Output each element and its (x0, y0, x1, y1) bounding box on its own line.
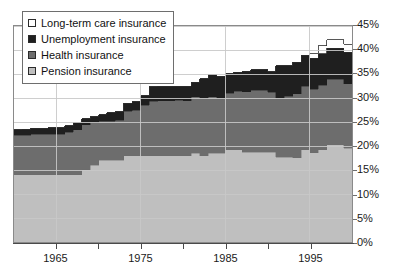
x-axis-tick-mark (226, 244, 227, 249)
y-axis-tick-label: 45% (357, 19, 379, 30)
y-axis-tick-mark (353, 219, 357, 220)
legend-label: Unemployment insurance (41, 33, 166, 45)
stacked-area-chart: 0%5%10%15%20%25%30%35%40%45% 19651975198… (0, 0, 393, 277)
legend-label: Health insurance (41, 49, 124, 61)
legend-item: Pension insurance (28, 63, 166, 79)
legend-label: Long-term care insurance (41, 17, 166, 29)
y-axis-tick-label: 10% (357, 189, 379, 200)
legend-swatch-unemployment-insurance (28, 35, 36, 43)
x-axis-tick-mark (98, 244, 99, 249)
x-axis-tick-label: 1985 (206, 252, 246, 264)
x-axis-tick-mark (311, 244, 312, 249)
y-axis-tick-label: 5% (357, 213, 373, 224)
y-axis-tick-label: 25% (357, 116, 379, 127)
y-axis-tick-mark (353, 98, 357, 99)
legend-swatch-health-insurance (28, 51, 36, 59)
y-axis-tick-mark (353, 170, 357, 171)
legend-swatch-long-term-care-insurance (28, 19, 36, 27)
y-axis-tick-mark (353, 73, 357, 74)
y-axis-tick-label: 40% (357, 43, 379, 54)
x-axis-tick-mark (56, 244, 57, 249)
legend-item: Long-term care insurance (28, 15, 166, 31)
y-axis-tick-mark (353, 49, 357, 50)
legend-item: Unemployment insurance (28, 31, 166, 47)
x-axis-tick-label: 1965 (36, 252, 76, 264)
legend-item: Health insurance (28, 47, 166, 63)
y-axis-tick-mark (353, 195, 357, 196)
legend-swatch-pension-insurance (28, 67, 36, 75)
y-axis-tick-label: 30% (357, 92, 379, 103)
chart-legend: Long-term care insurance Unemployment in… (22, 11, 174, 84)
x-axis-tick-mark (183, 244, 184, 249)
y-axis-tick-label: 0% (357, 237, 373, 248)
y-axis-tick-mark (353, 122, 357, 123)
y-axis-tick-mark (353, 146, 357, 147)
y-axis-tick-mark (353, 25, 357, 26)
y-axis-tick-label: 35% (357, 67, 379, 78)
legend-label: Pension insurance (41, 65, 132, 77)
x-axis-tick-label: 1975 (121, 252, 161, 264)
y-axis-tick-label: 20% (357, 140, 379, 151)
y-axis-tick-label: 15% (357, 164, 379, 175)
x-axis-tick-mark (268, 244, 269, 249)
x-axis-tick-label: 1995 (291, 252, 331, 264)
x-axis-tick-mark (141, 244, 142, 249)
